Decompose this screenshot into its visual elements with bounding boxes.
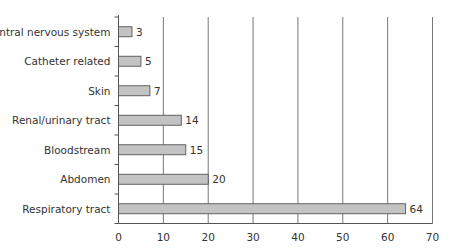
x-tick-label: 10 [157, 231, 170, 243]
value-label: 15 [190, 144, 203, 156]
category-label: Respiratory tract [22, 203, 110, 215]
category-label: Bloodstream [44, 144, 110, 156]
bar [119, 174, 209, 184]
x-tick-label: 20 [202, 231, 215, 243]
x-tick-label: 0 [115, 231, 122, 243]
category-label: Skin [88, 85, 110, 97]
value-label: 64 [410, 203, 424, 215]
value-label: 5 [145, 55, 152, 67]
value-label: 20 [212, 173, 225, 185]
category-label: Catheter related [24, 55, 110, 67]
x-tick-label: 70 [426, 231, 439, 243]
bar [119, 27, 132, 37]
bar [119, 145, 186, 155]
x-tick-label: 30 [246, 231, 259, 243]
bar [119, 115, 182, 125]
bar [119, 86, 150, 96]
x-tick-label: 50 [336, 231, 349, 243]
x-tick-label: 40 [291, 231, 304, 243]
bars [119, 27, 406, 214]
category-label: Central nervous system [0, 26, 111, 38]
bar [119, 56, 141, 66]
value-label: 14 [185, 114, 199, 126]
bar-chart: 010203040506070Central nervous system3Ca… [0, 0, 456, 250]
category-label: Abdomen [60, 173, 110, 185]
category-label: Renal/urinary tract [12, 114, 110, 126]
value-label: 7 [154, 85, 161, 97]
bar [119, 204, 406, 214]
x-tick-label: 60 [381, 231, 394, 243]
value-label: 3 [136, 26, 143, 38]
gridlines [163, 17, 432, 224]
